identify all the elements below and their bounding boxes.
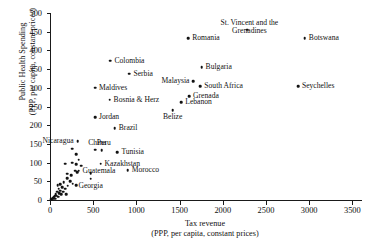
- data-point-label: Bosnia & Herz: [114, 95, 160, 104]
- data-point-unlabeled: [65, 193, 68, 196]
- y-tick: 350: [47, 69, 51, 70]
- y-tick-label: 250: [29, 102, 42, 111]
- data-point: [109, 60, 112, 63]
- y-tick-label: 100: [29, 158, 42, 167]
- y-tick-label: 500: [29, 9, 42, 18]
- x-tick: [309, 201, 310, 205]
- data-point: [76, 140, 79, 143]
- data-point-label: St. Vincent and the Grenadines: [221, 19, 279, 36]
- data-point-unlabeled: [70, 174, 73, 177]
- data-point-unlabeled: [54, 197, 57, 200]
- data-point: [187, 37, 190, 40]
- data-point-unlabeled: [72, 182, 75, 185]
- data-point-unlabeled: [71, 161, 74, 164]
- x-tick-label: 3500: [344, 206, 361, 215]
- y-tick-label: 300: [29, 83, 42, 92]
- data-point: [116, 151, 119, 154]
- y-tick-label: 450: [29, 27, 42, 36]
- data-point-label: Bulgaria: [206, 63, 232, 72]
- data-point: [77, 170, 80, 173]
- data-point-label: Guatemala: [83, 167, 116, 176]
- data-point-label: Jordan: [99, 113, 119, 122]
- y-tick: 200: [47, 125, 51, 126]
- data-point: [171, 109, 174, 112]
- data-point-unlabeled: [66, 184, 69, 187]
- x-tick-label: 2000: [214, 206, 231, 215]
- data-point-unlabeled: [50, 198, 53, 201]
- data-point-unlabeled: [63, 181, 66, 184]
- y-tick-label: 50: [34, 177, 42, 186]
- x-axis-title: Tax revenue (PPP, per capita, constant p…: [50, 219, 360, 238]
- data-point: [297, 85, 300, 88]
- x-tick-label: 1500: [171, 206, 188, 215]
- data-point-unlabeled: [66, 173, 69, 176]
- data-point-unlabeled: [57, 195, 60, 198]
- data-point-unlabeled: [60, 193, 63, 196]
- y-tick-label: 350: [29, 65, 42, 74]
- y-tick: 400: [47, 50, 51, 51]
- plot-area: 050100150200250300350400450500 050010001…: [50, 13, 361, 200]
- data-point: [126, 169, 129, 172]
- data-point-label: Botswana: [309, 34, 339, 43]
- y-tick-label: 0: [38, 196, 42, 205]
- data-point-label: Seychelles: [302, 82, 334, 91]
- x-tick-label: 0: [48, 206, 52, 215]
- data-point-unlabeled: [75, 153, 78, 156]
- data-point-unlabeled: [75, 163, 78, 166]
- data-point-unlabeled: [64, 187, 67, 190]
- data-point-unlabeled: [77, 158, 80, 161]
- x-tick: [266, 201, 267, 205]
- data-point-label: Peru: [97, 139, 111, 148]
- data-point: [89, 177, 92, 180]
- x-axis-line: [50, 200, 362, 201]
- data-point-label: Brazil: [119, 124, 138, 133]
- data-point-label: Romania: [192, 34, 219, 43]
- scatter-chart-figure: Public Health Spending (PPP, per capita,…: [0, 0, 371, 247]
- data-point: [199, 85, 202, 88]
- data-point-label: Lebanon: [185, 98, 212, 107]
- y-tick-label: 200: [29, 121, 42, 130]
- data-point-unlabeled: [64, 162, 67, 165]
- x-tick-label: 500: [87, 206, 100, 215]
- y-tick: 50: [47, 181, 51, 182]
- x-tick: [223, 201, 224, 205]
- y-tick: 250: [47, 107, 51, 108]
- x-tick-label: 2500: [258, 206, 275, 215]
- data-point: [192, 80, 195, 83]
- data-point: [101, 149, 104, 152]
- y-tick-label: 400: [29, 46, 42, 55]
- data-point-label: Georgia: [78, 182, 102, 191]
- data-point-unlabeled: [71, 147, 74, 150]
- data-point-label: Tunisia: [121, 148, 144, 157]
- y-tick: 450: [47, 32, 51, 33]
- data-point-label: Nicaragua: [42, 137, 73, 146]
- y-tick: 100: [47, 163, 51, 164]
- data-point-label: South Africa: [204, 82, 243, 91]
- data-point: [128, 72, 131, 75]
- data-point: [94, 116, 97, 119]
- data-point: [113, 127, 116, 130]
- data-point-unlabeled: [75, 184, 78, 187]
- data-point: [180, 101, 183, 104]
- x-tick-label: 1000: [128, 206, 145, 215]
- data-point-label: Maldives: [99, 84, 127, 93]
- data-point-label: Colombia: [114, 57, 144, 66]
- y-tick: 500: [47, 13, 51, 14]
- x-tick-label: 3000: [301, 206, 318, 215]
- x-tick: [50, 201, 51, 205]
- x-tick: [136, 201, 137, 205]
- data-point-unlabeled: [66, 177, 69, 180]
- data-point-unlabeled: [56, 184, 59, 187]
- y-tick-label: 150: [29, 139, 42, 148]
- data-point-label: Malaysia: [162, 77, 190, 86]
- data-point: [94, 87, 97, 90]
- data-point: [94, 148, 97, 151]
- data-point: [108, 98, 111, 101]
- data-point-label: Belize: [163, 113, 182, 122]
- x-tick: [180, 201, 181, 205]
- y-tick: 300: [47, 88, 51, 89]
- data-point: [200, 66, 203, 69]
- x-tick: [93, 201, 94, 205]
- x-tick: [352, 201, 353, 205]
- data-point-label: Morocco: [132, 166, 159, 175]
